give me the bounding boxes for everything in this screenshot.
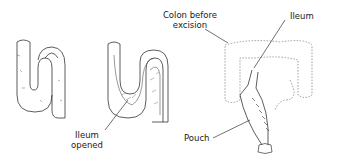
label-colon-line2: excision: [155, 20, 225, 30]
label-ileum-opened-line1: Ileum: [62, 130, 112, 140]
pouch-drawing: [205, 20, 285, 154]
label-colon-before-excision: Colon before excision: [155, 10, 225, 30]
label-ileum: Ileum: [290, 11, 314, 21]
diagram-canvas: Ileum opened Colon before excision Ileum…: [0, 0, 337, 165]
label-ileum-opened: Ileum opened: [62, 130, 112, 150]
label-colon-line1: Colon before: [155, 10, 225, 20]
ileum-leader-line: [254, 20, 285, 68]
label-pouch: Pouch: [184, 133, 209, 143]
pouch-leader-line: [213, 120, 250, 138]
ileum-opened-drawing: [105, 42, 168, 130]
label-ileum-opened-line2: opened: [62, 140, 112, 150]
ileum-loop-drawing: [17, 40, 65, 118]
colon-outline-drawing: [225, 41, 312, 110]
colon-leader-line: [205, 29, 228, 43]
